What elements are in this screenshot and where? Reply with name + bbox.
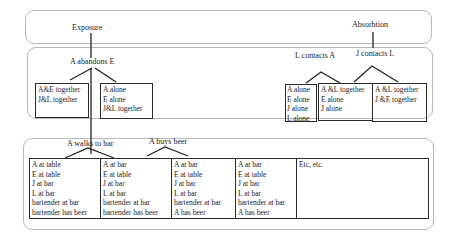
outcome-line: J &E together bbox=[375, 95, 424, 105]
abandon-left-branch bbox=[70, 68, 92, 80]
state-line: A has beer bbox=[238, 208, 294, 218]
state-line: L at bar bbox=[103, 189, 169, 199]
state-line: L at bar bbox=[32, 189, 98, 199]
outcome-box: A &L together E alone J alone bbox=[318, 83, 373, 121]
outcome-line: A&E together bbox=[38, 85, 86, 95]
absorption-label: Absorbtion bbox=[352, 21, 388, 29]
outcome-line: E alone bbox=[103, 95, 150, 105]
state-line: bartender at bar bbox=[32, 198, 98, 208]
state-line: E at table bbox=[32, 170, 98, 180]
state-line: E at table bbox=[103, 170, 169, 180]
state-cell: A at bar E at table J at bar L at bar ba… bbox=[101, 159, 172, 219]
outcome-box: A alone E alone J&L together bbox=[100, 83, 153, 119]
state-cell: A at table E at table J at bar L at bar … bbox=[30, 159, 101, 219]
state-line: L at bar bbox=[174, 189, 233, 199]
state-cell: A at bar E at table J at bar L at bar ba… bbox=[236, 159, 297, 219]
outcome-box: A alone E alone J alone L alone bbox=[285, 84, 317, 122]
outcome-line: J&L together bbox=[38, 95, 86, 105]
event-label: A walks to bar bbox=[67, 140, 113, 148]
state-line: L at bar bbox=[238, 189, 294, 199]
state-line: A at table bbox=[32, 160, 98, 170]
state-line: A at bar bbox=[174, 160, 233, 170]
j-contacts-branch bbox=[354, 66, 398, 82]
state-line: J at bar bbox=[103, 179, 169, 189]
exposure-label: Exposure bbox=[72, 24, 102, 32]
outcome-line: A &L together bbox=[375, 85, 424, 95]
state-line: A at bar bbox=[238, 160, 294, 170]
walk-branch bbox=[65, 148, 114, 158]
outcome-box: A &L together J &E together bbox=[372, 83, 427, 122]
state-line: A has beer bbox=[174, 208, 233, 218]
l-contacts-branch bbox=[306, 72, 340, 83]
state-line: J at bar bbox=[174, 179, 233, 189]
state-line: bartender has beer bbox=[32, 208, 98, 218]
outcome-box: A&E together J&L together bbox=[35, 83, 89, 118]
outcome-line: J alone bbox=[287, 104, 315, 114]
state-line: bartender at bar bbox=[238, 198, 294, 208]
state-line: E at table bbox=[238, 170, 294, 180]
outcome-line: A &L together bbox=[321, 85, 370, 95]
abandon-right-branch bbox=[95, 68, 116, 82]
state-line: Etc, etc. bbox=[299, 160, 426, 170]
outcome-line: E alone bbox=[321, 95, 370, 105]
absorption-event-label: J contacts L bbox=[356, 50, 394, 58]
state-line: bartender at bar bbox=[103, 198, 169, 208]
state-line: bartender at bar bbox=[174, 198, 233, 208]
state-line: J at bar bbox=[32, 179, 98, 189]
state-table: A at table E at table J at bar L at bar … bbox=[29, 158, 429, 219]
outcome-line: J&L together bbox=[103, 104, 150, 114]
outcome-line: A alone bbox=[287, 85, 315, 95]
state-line: A at bar bbox=[103, 160, 169, 170]
state-cell: Etc, etc. bbox=[297, 159, 429, 219]
state-line: E at table bbox=[174, 170, 233, 180]
absorption-event-label: L contacts A bbox=[295, 52, 335, 60]
state-line: J at bar bbox=[238, 179, 294, 189]
exposure-event-label: A abandons E bbox=[70, 58, 114, 66]
outcome-line: A alone bbox=[103, 85, 150, 95]
outcome-line: J alone bbox=[321, 104, 370, 114]
state-cell: A at bar E at table J at bar L at bar ba… bbox=[172, 159, 236, 219]
state-line: bartender has beer bbox=[103, 208, 169, 218]
outcome-line: E alone bbox=[287, 95, 315, 105]
buys-branch bbox=[147, 147, 188, 156]
event-label: A buys beer bbox=[149, 138, 187, 146]
state-row: A at table E at table J at bar L at bar … bbox=[30, 159, 429, 219]
outcome-line: L alone bbox=[287, 114, 315, 124]
